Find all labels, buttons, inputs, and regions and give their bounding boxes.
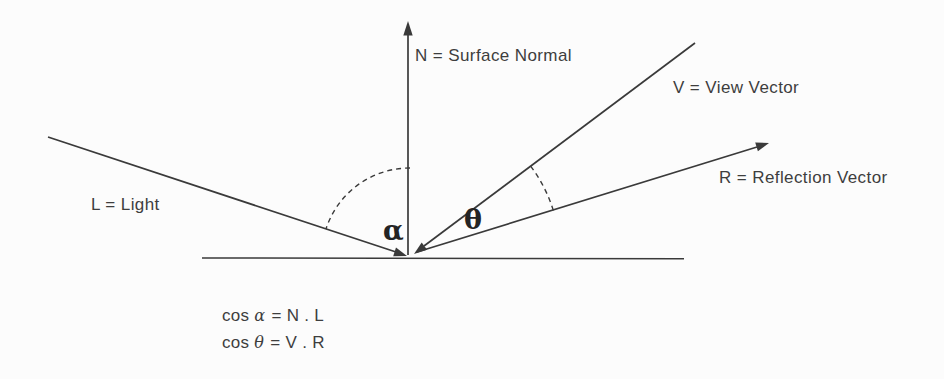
reflection-vector-line bbox=[417, 147, 757, 252]
cos-theta-formula: cosθ= V . R bbox=[222, 333, 325, 353]
formula-angle-symbol: θ bbox=[254, 333, 264, 352]
theta-angle-arc bbox=[531, 166, 554, 211]
alpha-angle-symbol: α bbox=[383, 217, 404, 244]
normal-label: N = Surface Normal bbox=[415, 46, 572, 66]
formula-func: cos bbox=[222, 306, 249, 325]
formula-angle-symbol: α bbox=[254, 306, 265, 325]
diagram-canvas: N = Surface Normal V = View Vector R = R… bbox=[0, 0, 944, 379]
cos-alpha-formula: cosα= N . L bbox=[222, 306, 324, 326]
theta-angle-symbol: θ bbox=[464, 206, 482, 233]
normal-arrowhead-icon bbox=[403, 21, 412, 36]
light-vector-label: L = Light bbox=[91, 195, 160, 215]
formula-rhs: = V . R bbox=[270, 333, 325, 352]
formula-func: cos bbox=[222, 333, 249, 352]
light-arrowhead-icon bbox=[393, 248, 407, 257]
reflection-vector-label: R = Reflection Vector bbox=[719, 168, 888, 188]
surface-line bbox=[202, 258, 684, 259]
reflection-arrowhead-icon bbox=[755, 143, 769, 152]
formula-rhs: = N . L bbox=[271, 306, 324, 325]
view-vector-label: V = View Vector bbox=[673, 78, 799, 98]
